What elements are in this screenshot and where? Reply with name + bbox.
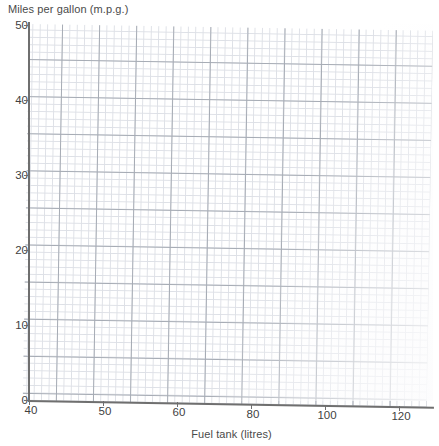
y-tick-mark [24,250,30,251]
x-tick-label: 50 [99,405,112,418]
x-tick-label: 80 [247,408,260,421]
y-tick-mark [24,175,30,176]
x-axis-title: Fuel tank (litres) [0,428,439,441]
y-tick-mark [24,25,30,26]
x-tick-label: 120 [391,410,410,423]
x-tick-label: 60 [173,406,186,419]
y-tick-mark [24,325,30,326]
graph-paper-figure: Miles per gallon (m.p.g.) 50403020100 40… [0,0,439,446]
graph-paper-grid [23,24,433,408]
y-axis-line [28,22,30,402]
x-tick-label: 40 [25,404,38,417]
y-tick-mark [24,100,30,101]
plot-area[interactable] [29,24,433,401]
grid-skew-wrapper [23,24,433,408]
y-axis-title: Miles per gallon (m.p.g.) [8,3,129,16]
x-tick-label: 100 [317,409,336,422]
